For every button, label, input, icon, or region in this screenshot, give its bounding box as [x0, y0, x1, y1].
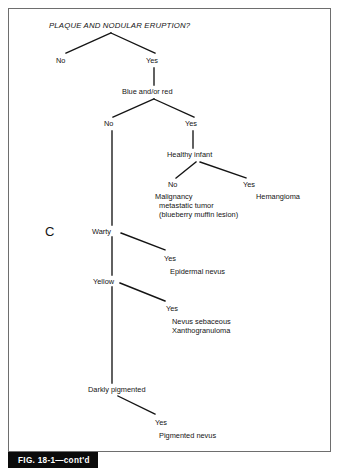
node-yellow: Yellow [93, 277, 115, 286]
edge-warty-to-yes [121, 233, 165, 250]
outcome-pigmented-nevus: Pigmented nevus [159, 431, 216, 440]
node-warty: Warty [92, 227, 111, 236]
edge-blue-to-no [113, 99, 154, 117]
edge-root-to-no [66, 33, 111, 53]
branch-label-yellow-yes: Yes [166, 304, 178, 313]
edge-root-to-yes [111, 33, 155, 53]
outcome-nevus-sebaceous: Nevus sebaceous [172, 317, 231, 326]
panel-letter-c: C [45, 224, 54, 239]
branch-label-blue-no: No [104, 119, 113, 128]
branch-label-root-yes: Yes [146, 56, 158, 65]
branch-label-warty-yes: Yes [164, 254, 176, 263]
outcome-malignancy-line3: (blueberry muffin lesion) [159, 210, 238, 219]
branch-label-darkly-yes: Yes [155, 418, 167, 427]
edge-blue-to-yes [154, 99, 194, 117]
figure-caption-text: FIG. 18-1—cont'd [18, 456, 90, 465]
node-healthy-infant: Healthy infant [167, 150, 212, 159]
outcome-epidermal-nevus: Epidermal nevus [170, 267, 225, 276]
figure-caption-bar: FIG. 18-1—cont'd [8, 452, 98, 468]
branch-label-root-no: No [56, 56, 65, 65]
root-question-label: PLAQUE AND NODULAR ERUPTION? [49, 21, 191, 30]
flowchart-canvas: PLAQUE AND NODULAR ERUPTION? No Yes Blue… [0, 0, 339, 470]
node-blue-and-or-red: Blue and/or red [122, 87, 173, 96]
outcome-malignancy-line2: metastatic tumor [159, 201, 214, 210]
edge-healthy-to-no [176, 162, 196, 178]
branch-label-blue-yes: Yes [185, 119, 197, 128]
outcome-malignancy-line1: Malignancy [155, 192, 193, 201]
outcome-xanthogranuloma: Xanthogranuloma [172, 326, 231, 335]
outcome-hemangioma: Hemangioma [256, 192, 301, 201]
node-darkly-pigmented: Darkly pigmented [88, 385, 146, 394]
branch-label-healthy-no: No [168, 180, 177, 189]
edge-yellow-to-yes [120, 283, 165, 301]
edge-darkly-to-yes [118, 396, 155, 414]
figure-panel-c: PLAQUE AND NODULAR ERUPTION? No Yes Blue… [0, 0, 339, 470]
branch-label-healthy-yes: Yes [243, 180, 255, 189]
edge-healthy-to-yes [200, 162, 246, 178]
